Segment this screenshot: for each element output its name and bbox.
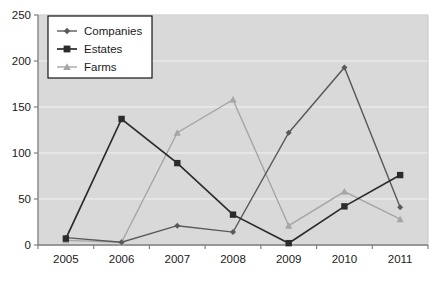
data-point-marker (397, 172, 403, 178)
legend-label-companies: Companies (84, 25, 142, 37)
legend: CompaniesEstatesFarms (48, 16, 152, 78)
y-axis-ticks: 050100150200250 (12, 9, 38, 251)
data-point-marker (341, 203, 347, 209)
data-point-marker (63, 235, 69, 241)
data-point-marker (174, 160, 180, 166)
legend-label-farms: Farms (84, 61, 117, 73)
line-chart: 0501001502002502005200620072008200920102… (0, 0, 437, 284)
data-point-marker (286, 240, 292, 246)
y-tick-label: 150 (12, 101, 31, 113)
x-tick-label: 2009 (276, 253, 302, 265)
x-tick-label: 2011 (388, 253, 413, 265)
y-tick-label: 0 (25, 239, 31, 251)
x-tick-label: 2007 (164, 253, 190, 265)
x-tick-label: 2006 (109, 253, 135, 265)
y-tick-label: 50 (18, 193, 31, 205)
x-tick-label: 2008 (220, 253, 246, 265)
x-tick-label: 2010 (332, 253, 358, 265)
data-point-marker (230, 211, 236, 217)
y-tick-label: 250 (12, 9, 31, 21)
legend-marker-square (64, 46, 71, 53)
data-point-marker (118, 116, 124, 122)
y-tick-label: 100 (12, 147, 31, 159)
x-axis-ticks: 2005200620072008200920102011 (38, 245, 428, 265)
x-tick-label: 2005 (53, 253, 79, 265)
legend-label-estates: Estates (84, 43, 123, 55)
chart-canvas: 0501001502002502005200620072008200920102… (0, 0, 437, 284)
y-tick-label: 200 (12, 55, 31, 67)
